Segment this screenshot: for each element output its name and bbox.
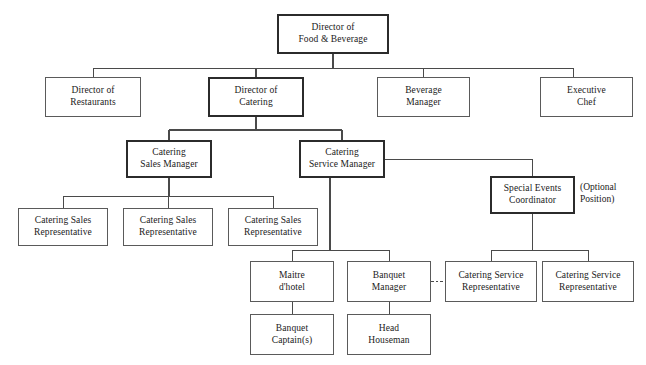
org-node-maitre-dhotel[interactable]: Maitre d'hotel (250, 261, 334, 302)
org-node-catering-service-rep-1[interactable]: Catering Service Representative (445, 261, 537, 302)
connector-service-manager-to-events (385, 159, 532, 176)
org-node-executive-chef[interactable]: Executive Chef (540, 77, 633, 117)
org-node-label: Catering Sales Representative (242, 215, 304, 239)
org-node-catering-sales-rep-3[interactable]: Catering Sales Representative (228, 208, 318, 246)
org-node-catering-service-rep-2[interactable]: Catering Service Representative (542, 261, 634, 302)
org-node-banquet-manager[interactable]: Banquet Manager (347, 261, 431, 302)
org-node-label: Director of Catering (232, 85, 279, 109)
org-node-label: Catering Sales Manager (138, 147, 200, 171)
org-node-label: Special Events Coordinator (502, 183, 564, 207)
org-node-director-food-beverage[interactable]: Director of Food & Beverage (277, 14, 389, 54)
org-node-label: Head Houseman (366, 323, 411, 347)
org-node-catering-sales-rep-2[interactable]: Catering Sales Representative (123, 208, 213, 246)
org-node-catering-service-manager[interactable]: Catering Service Manager (299, 140, 385, 178)
org-node-label: Catering Service Representative (553, 270, 622, 294)
org-chart-canvas: Director of Food & BeverageDirector of R… (0, 0, 646, 365)
org-node-label: Catering Sales Representative (137, 215, 199, 239)
org-node-director-catering[interactable]: Director of Catering (208, 77, 304, 117)
org-node-label: Banquet Manager (370, 270, 408, 294)
org-node-label: Maitre d'hotel (277, 270, 307, 294)
org-node-label: Banquet Captain(s) (270, 323, 315, 347)
org-node-beverage-manager[interactable]: Beverage Manager (377, 77, 470, 117)
org-node-catering-sales-manager[interactable]: Catering Sales Manager (126, 140, 212, 178)
org-node-label: Executive Chef (565, 85, 608, 109)
org-node-special-events-coordinator[interactable]: Special Events Coordinator (490, 176, 575, 214)
annotation-optional-position-note: (Optional Position) (580, 182, 616, 206)
org-node-catering-sales-rep-1[interactable]: Catering Sales Representative (18, 208, 108, 246)
org-node-label: Catering Service Manager (307, 147, 377, 171)
org-node-head-houseman[interactable]: Head Houseman (347, 314, 431, 355)
org-node-label: Catering Sales Representative (32, 215, 94, 239)
org-node-label: Director of Food & Beverage (296, 22, 369, 46)
org-node-banquet-captains[interactable]: Banquet Captain(s) (250, 314, 334, 355)
org-node-label: Director of Restaurants (68, 85, 117, 109)
org-node-label: Beverage Manager (403, 85, 444, 109)
org-node-director-restaurants[interactable]: Director of Restaurants (45, 77, 141, 117)
org-node-label: Catering Service Representative (456, 270, 525, 294)
